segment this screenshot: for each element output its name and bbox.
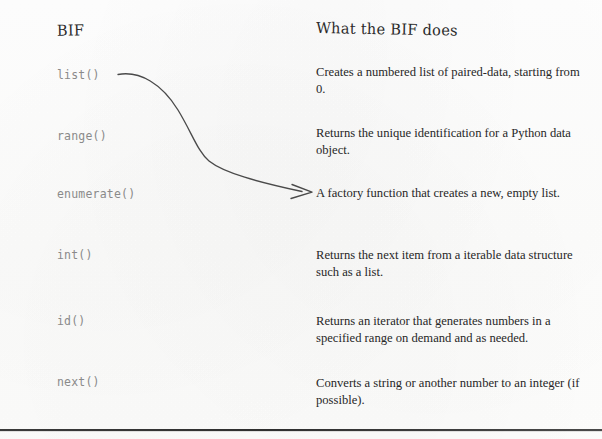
page-bottom-rule-shadow xyxy=(0,431,602,432)
bif-description-0: Creates a numbered list of paired-data, … xyxy=(316,64,588,97)
bif-name-next: next() xyxy=(57,375,100,389)
bif-name-int: int() xyxy=(57,248,93,262)
bif-description-3: Returns the next item from a iterable da… xyxy=(316,247,588,280)
bif-name-range: range() xyxy=(57,129,107,143)
bif-description-4: Returns an iterator that generates numbe… xyxy=(316,313,588,346)
bif-name-column: list() range() enumerate() int() id() ne… xyxy=(57,0,297,439)
bif-description-column: Creates a numbered list of paired-data, … xyxy=(316,0,596,439)
bif-description-1: Returns the unique identification for a … xyxy=(316,125,588,158)
bif-description-5: Converts a string or another number to a… xyxy=(316,375,588,408)
bif-description-2: A factory function that creates a new, e… xyxy=(316,185,588,202)
bif-name-list: list() xyxy=(57,68,100,82)
bif-name-id: id() xyxy=(57,314,86,328)
bif-name-enumerate: enumerate() xyxy=(57,187,135,201)
